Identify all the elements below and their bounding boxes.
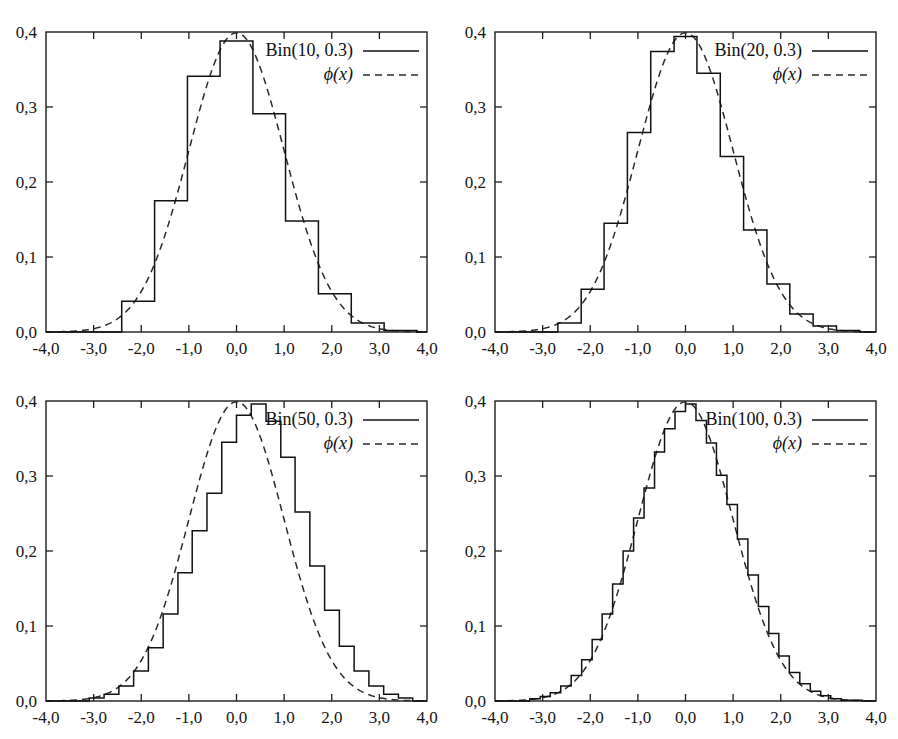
y-tick-label-4: 0,4 xyxy=(465,392,487,411)
legend: Bin(20, 0.3)ϕ(x) xyxy=(715,40,869,85)
y-tick-label-3: 0,3 xyxy=(16,98,37,117)
x-tick-label-1: -3,0 xyxy=(80,339,107,358)
x-tick-label-6: 2,0 xyxy=(770,339,791,358)
y-tick-label-2: 0,2 xyxy=(16,173,37,192)
legend-label-normal-density: ϕ(x) xyxy=(773,64,802,85)
legend: Bin(10, 0.3)ϕ(x) xyxy=(266,40,420,85)
x-tick-label-4: 0,0 xyxy=(675,708,696,727)
legend-label-normal-density: ϕ(x) xyxy=(773,433,802,454)
normal-density-curve xyxy=(495,33,876,332)
x-tick-label-7: 3,0 xyxy=(369,708,390,727)
legend-label-binomial: Bin(10, 0.3) xyxy=(266,40,354,61)
chart-bin-20: -4,0-3,0-2,0-1,00,01,02,03,04,00,00,10,2… xyxy=(449,0,898,369)
x-tick-label-1: -3,0 xyxy=(80,708,107,727)
y-tick-label-2: 0,2 xyxy=(465,173,486,192)
x-tick-label-8: 4,0 xyxy=(865,708,886,727)
y-tick-label-1: 0,1 xyxy=(465,248,486,267)
y-tick-label-1: 0,1 xyxy=(16,617,37,636)
x-tick-label-8: 4,0 xyxy=(865,339,886,358)
plot-frame xyxy=(495,401,876,701)
histogram-outline xyxy=(495,404,876,701)
y-tick-label-4: 0,4 xyxy=(465,23,487,42)
legend: Bin(50, 0.3)ϕ(x) xyxy=(266,409,420,454)
x-tick-label-3: -1,0 xyxy=(175,339,202,358)
normal-density-curve xyxy=(46,402,427,701)
legend-label-binomial: Bin(20, 0.3) xyxy=(715,40,803,61)
x-tick-label-1: -3,0 xyxy=(529,339,556,358)
y-tick-label-3: 0,3 xyxy=(465,467,486,486)
normal-density-curve xyxy=(495,402,876,701)
figure-binomial-normal-convergence: -4,0-3,0-2,0-1,00,01,02,03,04,00,00,10,2… xyxy=(0,0,898,739)
x-tick-label-7: 3,0 xyxy=(369,339,390,358)
legend-label-normal-density: ϕ(x) xyxy=(324,433,353,454)
panel-bin-100: -4,0-3,0-2,0-1,00,01,02,03,04,00,00,10,2… xyxy=(449,369,898,738)
y-tick-label-2: 0,2 xyxy=(465,542,486,561)
x-tick-label-5: 1,0 xyxy=(723,708,744,727)
x-tick-label-7: 3,0 xyxy=(818,708,839,727)
panel-bin-50: -4,0-3,0-2,0-1,00,01,02,03,04,00,00,10,2… xyxy=(0,369,449,738)
normal-density-curve xyxy=(46,33,427,332)
y-tick-label-1: 0,1 xyxy=(16,248,37,267)
y-tick-label-0: 0,0 xyxy=(16,692,37,711)
x-tick-label-5: 1,0 xyxy=(274,708,295,727)
plot-frame xyxy=(46,32,427,332)
histogram-outline xyxy=(46,404,427,701)
y-tick-label-1: 0,1 xyxy=(465,617,486,636)
y-tick-label-4: 0,4 xyxy=(16,23,38,42)
y-tick-label-0: 0,0 xyxy=(465,692,486,711)
legend: Bin(100, 0.3)ϕ(x) xyxy=(706,409,869,454)
x-tick-label-6: 2,0 xyxy=(770,708,791,727)
x-tick-label-1: -3,0 xyxy=(529,708,556,727)
y-tick-label-2: 0,2 xyxy=(16,542,37,561)
legend-label-binomial: Bin(50, 0.3) xyxy=(266,409,354,430)
x-tick-label-2: -2,0 xyxy=(128,339,155,358)
x-tick-label-5: 1,0 xyxy=(274,339,295,358)
x-tick-label-4: 0,0 xyxy=(226,339,247,358)
x-tick-label-6: 2,0 xyxy=(321,339,342,358)
panel-bin-10: -4,0-3,0-2,0-1,00,01,02,03,04,00,00,10,2… xyxy=(0,0,449,369)
y-tick-label-3: 0,3 xyxy=(465,98,486,117)
panel-bin-20: -4,0-3,0-2,0-1,00,01,02,03,04,00,00,10,2… xyxy=(449,0,898,369)
histogram-outline xyxy=(495,37,876,333)
x-tick-label-2: -2,0 xyxy=(577,708,604,727)
y-tick-label-4: 0,4 xyxy=(16,392,38,411)
x-tick-label-2: -2,0 xyxy=(577,339,604,358)
chart-bin-10: -4,0-3,0-2,0-1,00,01,02,03,04,00,00,10,2… xyxy=(0,0,449,369)
x-tick-label-8: 4,0 xyxy=(416,339,437,358)
x-tick-label-6: 2,0 xyxy=(321,708,342,727)
x-tick-label-7: 3,0 xyxy=(818,339,839,358)
y-tick-label-0: 0,0 xyxy=(465,323,486,342)
x-tick-label-3: -1,0 xyxy=(624,708,651,727)
x-tick-label-4: 0,0 xyxy=(226,708,247,727)
plot-frame xyxy=(46,401,427,701)
histogram-outline xyxy=(46,41,427,332)
x-tick-label-3: -1,0 xyxy=(624,339,651,358)
legend-label-normal-density: ϕ(x) xyxy=(324,64,353,85)
y-tick-label-0: 0,0 xyxy=(16,323,37,342)
plot-frame xyxy=(495,32,876,332)
x-tick-label-3: -1,0 xyxy=(175,708,202,727)
x-tick-label-8: 4,0 xyxy=(416,708,437,727)
x-tick-label-5: 1,0 xyxy=(723,339,744,358)
y-tick-label-3: 0,3 xyxy=(16,467,37,486)
legend-label-binomial: Bin(100, 0.3) xyxy=(706,409,803,430)
x-tick-label-2: -2,0 xyxy=(128,708,155,727)
chart-bin-50: -4,0-3,0-2,0-1,00,01,02,03,04,00,00,10,2… xyxy=(0,369,449,738)
chart-bin-100: -4,0-3,0-2,0-1,00,01,02,03,04,00,00,10,2… xyxy=(449,369,898,738)
x-tick-label-4: 0,0 xyxy=(675,339,696,358)
